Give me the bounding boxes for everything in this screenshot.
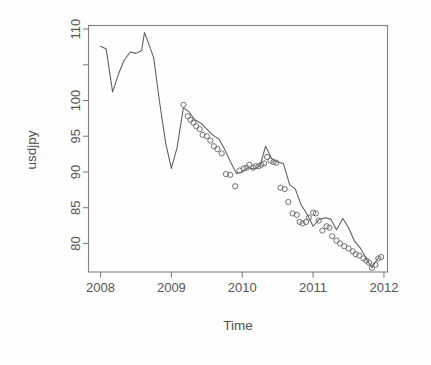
y-tick-label-85: 85	[68, 200, 83, 214]
plot-canvas: 80859095100110 20082009201020112012 usdj…	[0, 0, 431, 365]
y-axis-title: usdjpy	[24, 130, 39, 169]
y-tick-label-80: 80	[68, 236, 83, 250]
y-tick-label-95: 95	[68, 129, 83, 143]
x-tick-label-2009: 2009	[157, 280, 186, 295]
y-tick-label-100: 100	[68, 90, 83, 112]
y-tick-label-110: 110	[68, 19, 83, 40]
x-tick-label-2011: 2011	[299, 280, 327, 295]
figure-background	[0, 0, 431, 365]
x-tick-label-2008: 2008	[86, 280, 115, 295]
x-tick-label-2012: 2012	[369, 280, 398, 295]
x-tick-label-2010: 2010	[228, 280, 257, 295]
y-tick-label-90: 90	[68, 165, 83, 179]
chart-figure: 80859095100110 20082009201020112012 usdj…	[0, 0, 431, 365]
x-axis-title: Time	[223, 318, 253, 333]
